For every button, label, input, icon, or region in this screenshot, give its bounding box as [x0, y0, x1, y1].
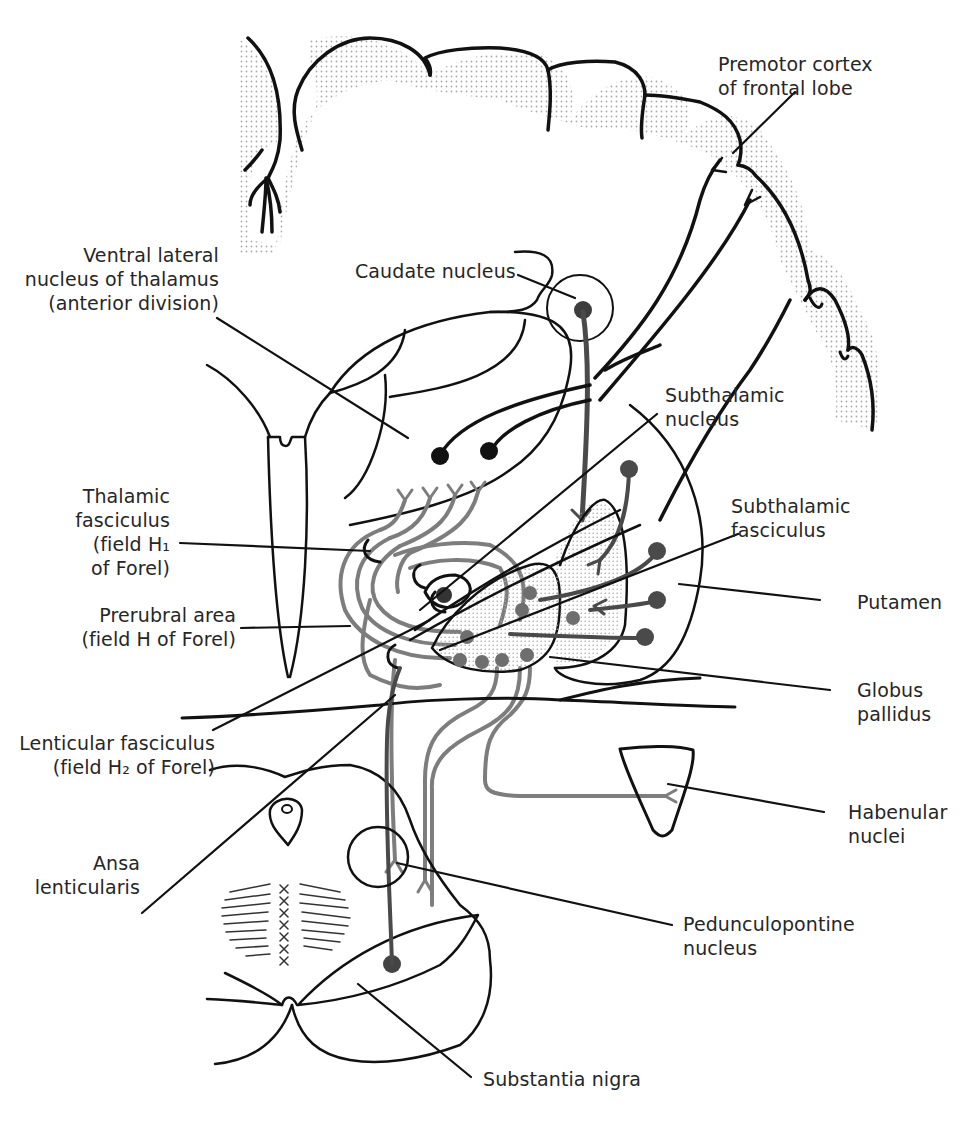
- label-caudate-nucleus: Caudate nucleus: [355, 259, 516, 283]
- diencephalon-floor: [182, 678, 735, 718]
- habenular-nuclei: [620, 746, 693, 836]
- label-line: nuclei: [848, 824, 947, 848]
- label-line: Premotor cortex: [718, 52, 873, 76]
- label-line: Pedunculopontine: [683, 912, 855, 936]
- label-line: (field H of Forel): [36, 627, 236, 651]
- label-line: pallidus: [857, 702, 931, 726]
- label-line: Prerubral area: [36, 603, 236, 627]
- label-line: fasciculus: [731, 518, 851, 542]
- label-line: nucleus: [665, 407, 785, 431]
- label-line: Ansa: [0, 851, 140, 875]
- label-globus-pallidus: Globus pallidus: [857, 678, 931, 726]
- label-habenular-nuclei: Habenular nuclei: [848, 800, 947, 848]
- label-line: nucleus of thalamus: [0, 267, 219, 291]
- label-ansa-lenticularis: Ansa lenticularis: [0, 851, 140, 899]
- label-line: Globus: [857, 678, 931, 702]
- label-line: (field H₂ of Forel): [0, 755, 215, 779]
- label-line: Subthalamic: [665, 383, 785, 407]
- label-subthalamic-fasciculus: Subthalamic fasciculus: [731, 494, 851, 542]
- label-line: of Forel): [10, 556, 170, 580]
- caudate-nucleus: [490, 252, 613, 520]
- decussation-hatching: [222, 884, 350, 965]
- label-subthalamic-nucleus: Subthalamic nucleus: [665, 383, 785, 431]
- label-line: Putamen: [857, 590, 942, 614]
- label-line: nucleus: [683, 936, 855, 960]
- label-line: fasciculus: [10, 508, 170, 532]
- label-line: lenticularis: [0, 875, 140, 899]
- label-line: Substantia nigra: [483, 1067, 641, 1091]
- label-ventral-lateral-nucleus: Ventral lateral nucleus of thalamus (ant…: [0, 243, 219, 315]
- label-thalamic-fasciculus: Thalamic fasciculus (field H₁ of Forel): [10, 484, 170, 580]
- label-putamen: Putamen: [857, 590, 942, 614]
- label-pedunculopontine-nucleus: Pedunculopontine nucleus: [683, 912, 855, 960]
- label-substantia-nigra: Substantia nigra: [483, 1067, 641, 1091]
- label-line: Caudate nucleus: [355, 259, 516, 283]
- label-line: Lenticular fasciculus: [0, 731, 215, 755]
- midbrain: [207, 668, 491, 1064]
- basal-ganglia-diagram: Premotor cortex of frontal lobe Ventral …: [0, 0, 970, 1121]
- label-prerubral-area: Prerubral area (field H of Forel): [36, 603, 236, 651]
- label-line: of frontal lobe: [718, 76, 873, 100]
- label-line: (anterior division): [0, 291, 219, 315]
- label-premotor-cortex: Premotor cortex of frontal lobe: [718, 52, 873, 100]
- thalamus: [330, 312, 590, 525]
- label-line: Thalamic: [10, 484, 170, 508]
- label-line: Habenular: [848, 800, 947, 824]
- label-line: Ventral lateral: [0, 243, 219, 267]
- label-line: (field H₁: [10, 532, 170, 556]
- label-lenticular-fasciculus: Lenticular fasciculus (field H₂ of Forel…: [0, 731, 215, 779]
- label-line: Subthalamic: [731, 494, 851, 518]
